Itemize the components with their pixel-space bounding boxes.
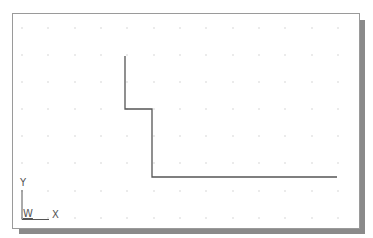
grid-dot [285,218,286,219]
grid-dot [206,191,207,192]
grid-dot [233,109,234,110]
grid-dot [338,55,339,56]
grid-dot [154,82,155,83]
grid-dot [338,191,339,192]
grid-dot [180,218,181,219]
grid-dot [154,55,155,56]
grid-dot [285,109,286,110]
drawing-canvas[interactable] [0,0,373,238]
grid-dot [233,218,234,219]
grid-dot [101,218,102,219]
grid-dot [180,191,181,192]
grid-dot [259,163,260,164]
grid-dot [154,218,155,219]
grid-dot [180,136,181,137]
grid-dot [233,28,234,29]
grid-dot [285,55,286,56]
grid-dot [180,163,181,164]
grid-dot [154,109,155,110]
grid-dot [312,55,313,56]
ucs-x-label: X [52,210,59,220]
grid-dot [206,218,207,219]
grid-dot [180,109,181,110]
grid-dot [338,136,339,137]
grid-dot [338,109,339,110]
ucs-y-label: Y [20,178,26,188]
grid-dot [285,136,286,137]
grid-dot [127,191,128,192]
grid-dot [48,218,49,219]
grid-dot [101,109,102,110]
grid-dot [312,191,313,192]
grid-dot [101,55,102,56]
grid-dot [312,136,313,137]
grid-dot [101,28,102,29]
grid-dot [127,55,128,56]
grid-dot [22,136,23,137]
polyline-entity[interactable] [125,56,337,177]
grid-dot [101,163,102,164]
grid-dot [75,163,76,164]
grid-dot [259,109,260,110]
grid-dots [22,28,339,219]
grid-dot [154,163,155,164]
grid-dot [312,163,313,164]
grid-dot [233,55,234,56]
grid-dot [206,109,207,110]
grid-dot [75,82,76,83]
grid-dot [338,28,339,29]
grid-dot [101,136,102,137]
grid-dot [259,28,260,29]
grid-dot [127,218,128,219]
grid-dot [101,191,102,192]
grid-dot [206,163,207,164]
grid-dot [22,163,23,164]
grid-dot [180,28,181,29]
grid-dot [206,136,207,137]
grid-dot [48,136,49,137]
grid-dot [312,218,313,219]
grid-dot [180,55,181,56]
grid-dot [259,82,260,83]
grid-dot [127,28,128,29]
grid-dot [127,163,128,164]
grid-dot [259,136,260,137]
grid-dot [206,55,207,56]
grid-dot [48,55,49,56]
grid-dot [48,109,49,110]
grid-dot [285,82,286,83]
grid-dot [259,191,260,192]
grid-dot [101,82,102,83]
grid-dot [48,82,49,83]
grid-dot [127,82,128,83]
grid-dot [48,28,49,29]
grid-dot [22,82,23,83]
grid-dot [338,82,339,83]
grid-dot [48,163,49,164]
grid-dot [154,136,155,137]
grid-dot [259,218,260,219]
grid-dot [127,136,128,137]
grid-dot [75,28,76,29]
grid-dot [233,136,234,137]
grid-dot [338,218,339,219]
grid-dot [206,82,207,83]
grid-dot [154,191,155,192]
grid-dot [75,109,76,110]
grid-dot [154,28,155,29]
grid-dot [180,82,181,83]
grid-dot [259,55,260,56]
grid-dot [285,163,286,164]
grid-dot [233,191,234,192]
grid-dot [312,82,313,83]
grid-dot [48,191,49,192]
grid-dot [75,191,76,192]
grid-dot [233,163,234,164]
grid-dot [312,28,313,29]
grid-dot [312,109,313,110]
grid-dot [285,191,286,192]
grid-dot [338,163,339,164]
grid-dot [75,55,76,56]
grid-dot [206,28,207,29]
grid-dot [233,82,234,83]
